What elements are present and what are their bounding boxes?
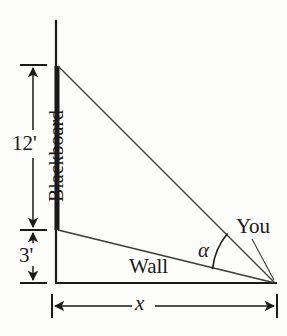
blackboard-angle-diagram: 12' 3' Blackboard Wall You α x <box>0 0 287 336</box>
observer-label: You <box>236 216 270 237</box>
wall-label: Wall <box>129 256 168 277</box>
distance-label: x <box>135 293 144 314</box>
sight-line-top <box>58 66 275 283</box>
angle-arc <box>213 234 228 270</box>
diagram-canvas <box>0 0 287 336</box>
height-lower-label: 3' <box>19 245 33 266</box>
angle-label: α <box>198 240 209 261</box>
height-upper-label: 12' <box>12 133 37 154</box>
blackboard-label: Blackboard <box>46 91 66 221</box>
observer-leader-line <box>252 239 274 280</box>
